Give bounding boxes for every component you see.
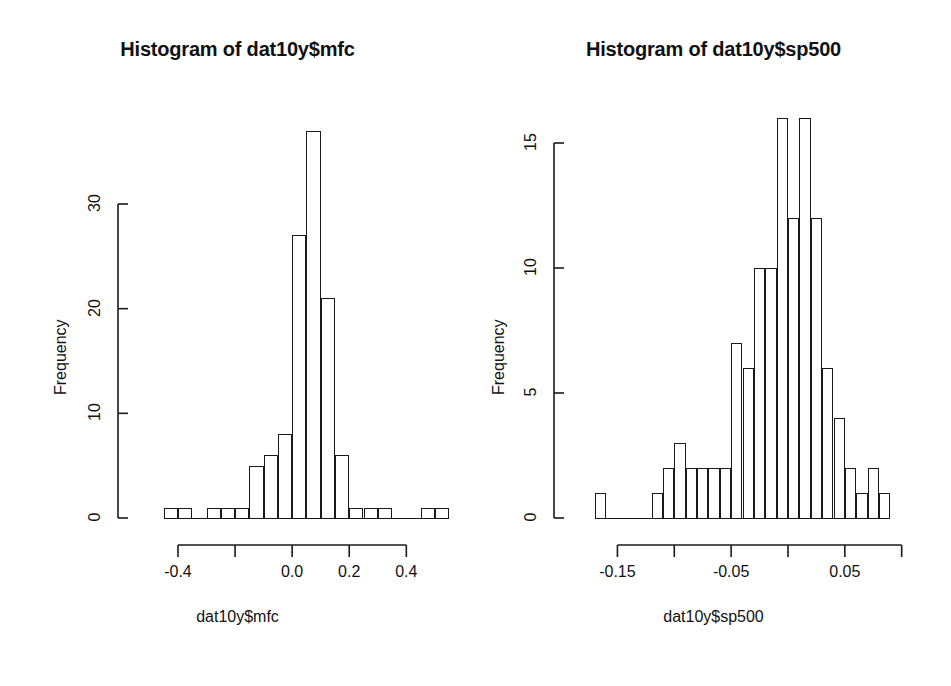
- x-axis: [476, 0, 951, 686]
- x-tick-label: -0.4: [138, 563, 218, 581]
- x-tick-label: -0.15: [577, 563, 657, 581]
- histogram-panel-sp500: Histogram of dat10y$sp500 Frequency dat1…: [476, 0, 951, 686]
- histogram-panel-mfc: Histogram of dat10y$mfc Frequency dat10y…: [0, 0, 475, 686]
- y-tick-label: 10: [86, 395, 104, 429]
- x-tick-label: 0.4: [366, 563, 446, 581]
- plot-baseline: [595, 518, 891, 519]
- x-tick-label: -0.05: [691, 563, 771, 581]
- y-tick-label: 10: [522, 250, 540, 284]
- y-tick-label: 5: [522, 375, 540, 409]
- y-tick-label: 30: [86, 186, 104, 220]
- x-axis: [0, 0, 475, 686]
- y-tick-label: 0: [86, 500, 104, 534]
- y-tick-label: 20: [86, 291, 104, 325]
- plot-baseline: [164, 518, 449, 519]
- x-tick-label: 0.05: [805, 563, 885, 581]
- y-tick-label: 0: [522, 500, 540, 534]
- y-tick-label: 15: [522, 125, 540, 159]
